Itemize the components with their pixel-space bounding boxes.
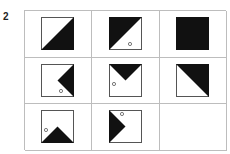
puzzle-cell-r2c1 — [25, 58, 92, 104]
triangle-pointing-left-icon — [41, 64, 74, 97]
puzzle-grid — [24, 10, 226, 150]
puzzle-cell-r3c1 — [25, 104, 92, 151]
puzzle-cell-r3c3-empty — [160, 104, 227, 151]
filled-square-icon — [176, 17, 209, 50]
triangle-pointing-up-icon — [41, 110, 74, 143]
puzzle-cell-r1c3 — [160, 11, 227, 58]
triangle-bottom-right-icon — [41, 17, 74, 50]
puzzle-cell-r2c2 — [92, 58, 160, 104]
triangle-pointing-right-icon — [109, 110, 142, 143]
triangle-top-left-icon — [109, 17, 142, 50]
puzzle-cell-r1c2 — [92, 11, 160, 58]
puzzle-cell-r1c1 — [25, 11, 92, 58]
puzzle-cell-r2c3 — [160, 58, 227, 104]
triangle-pointing-down-icon — [109, 64, 142, 97]
question-number: 2 — [3, 11, 9, 22]
triangle-top-right-icon — [176, 64, 209, 97]
puzzle-cell-r3c2 — [92, 104, 160, 151]
